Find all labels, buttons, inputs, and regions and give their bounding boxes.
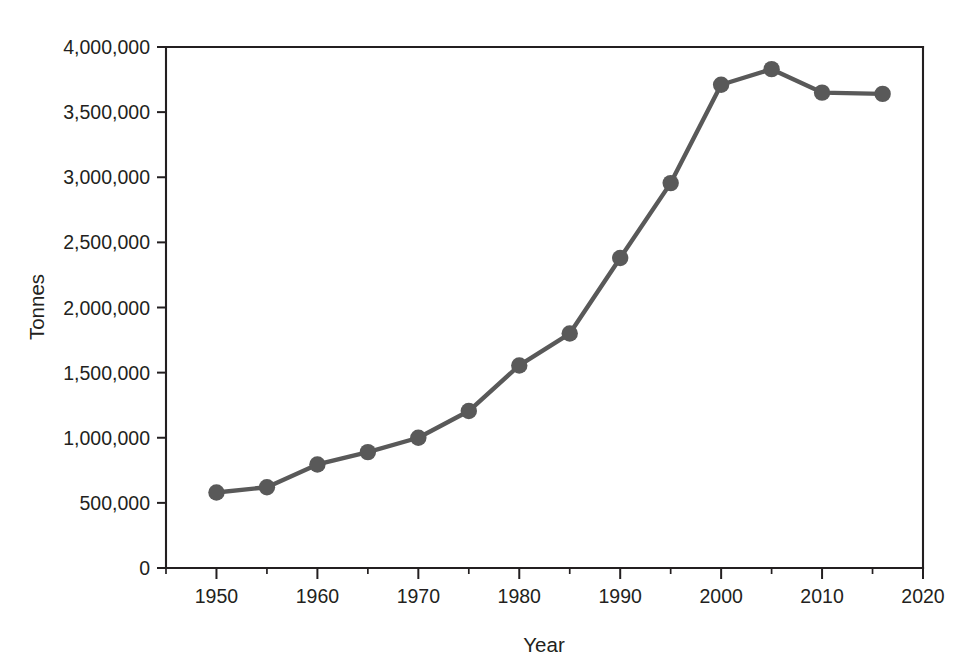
y-tick-label: 1,000,000 <box>63 427 150 449</box>
x-axis-ticks <box>166 568 923 579</box>
data-point <box>461 403 477 419</box>
y-tick-label: 3,500,000 <box>63 101 150 123</box>
data-point <box>259 479 275 495</box>
y-tick-label: 3,000,000 <box>63 166 150 188</box>
data-point <box>208 484 224 500</box>
y-tick-label: 2,500,000 <box>63 231 150 253</box>
x-axis-title: Year <box>523 633 565 656</box>
x-tick-label: 2020 <box>901 585 945 607</box>
data-point <box>814 84 830 100</box>
series-line <box>216 69 882 492</box>
y-axis-ticks <box>157 47 166 568</box>
data-point <box>410 430 426 446</box>
y-tick-label: 2,000,000 <box>63 297 150 319</box>
data-point <box>612 250 628 266</box>
y-axis-title: Tonnes <box>25 274 48 340</box>
y-tick-label: 0 <box>139 557 150 579</box>
data-point <box>511 357 527 373</box>
x-tick-label: 2010 <box>800 585 844 607</box>
y-axis-tick-labels: 0500,0001,000,0001,500,0002,000,0002,500… <box>63 36 150 579</box>
x-tick-label: 2000 <box>699 585 743 607</box>
x-tick-label: 1990 <box>599 585 643 607</box>
data-point <box>562 325 578 341</box>
data-point <box>309 456 325 472</box>
x-tick-label: 1950 <box>195 585 239 607</box>
data-point <box>662 175 678 191</box>
series-markers <box>208 61 891 501</box>
y-tick-label: 1,500,000 <box>63 362 150 384</box>
x-tick-label: 1960 <box>296 585 340 607</box>
plot-frame <box>166 47 923 568</box>
data-point <box>713 77 729 93</box>
y-tick-label: 500,000 <box>80 492 151 514</box>
x-tick-label: 1970 <box>397 585 441 607</box>
line-chart: 0500,0001,000,0001,500,0002,000,0002,500… <box>0 0 974 671</box>
x-tick-label: 1980 <box>498 585 542 607</box>
chart-page: 0500,0001,000,0001,500,0002,000,0002,500… <box>0 0 974 671</box>
x-axis-tick-labels: 19501960197019801990200020102020 <box>195 585 945 607</box>
data-series-tonnes <box>208 61 891 501</box>
data-point <box>360 444 376 460</box>
data-point <box>874 86 890 102</box>
data-point <box>763 61 779 77</box>
y-tick-label: 4,000,000 <box>63 36 150 58</box>
